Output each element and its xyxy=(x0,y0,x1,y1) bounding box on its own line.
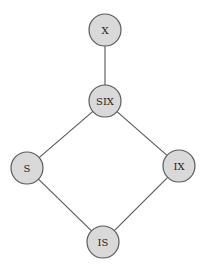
lock-hierarchy-diagram: XSIXSIXIS xyxy=(0,0,205,272)
edge-s-is xyxy=(38,179,91,231)
node-six: SIX xyxy=(89,85,121,117)
node-x: X xyxy=(89,14,121,46)
node-label: X xyxy=(101,25,109,36)
node-label: IX xyxy=(173,161,185,172)
node-s: S xyxy=(11,152,43,184)
edges-layer xyxy=(38,46,167,231)
nodes-layer: XSIXSIXIS xyxy=(11,14,195,258)
node-label: IS xyxy=(98,237,109,248)
node-ix: IX xyxy=(163,150,195,182)
node-label: SIX xyxy=(96,96,115,107)
edge-ix-is xyxy=(114,177,167,230)
node-label: S xyxy=(24,163,31,174)
edge-six-s xyxy=(39,111,93,157)
edge-six-ix xyxy=(117,112,167,156)
node-is: IS xyxy=(87,226,119,258)
